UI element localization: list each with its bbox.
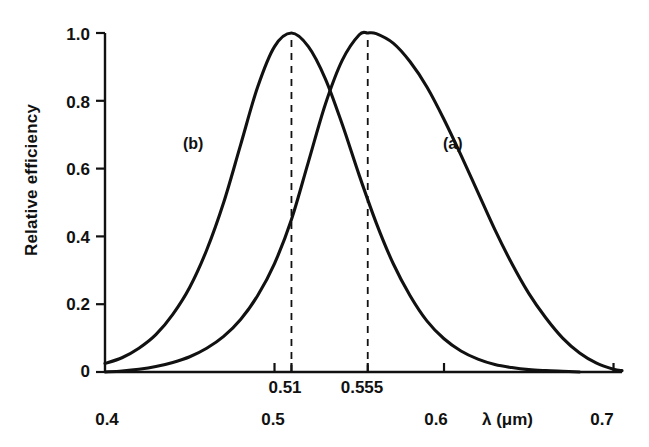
plot-svg: [0, 0, 649, 447]
axis-lines: [105, 33, 622, 372]
figure-container: Relative efficiency 1.0 0.8 0.6 0.4 0.2 …: [0, 0, 649, 447]
curve-a: [105, 32, 622, 372]
curve-b: [105, 33, 580, 372]
data-curves: [105, 32, 622, 372]
y-tick-marks: [96, 33, 105, 372]
reference-dashed-lines: [291, 33, 367, 372]
